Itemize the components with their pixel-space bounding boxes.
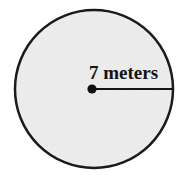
- center-dot: [87, 84, 96, 93]
- circle-radius-figure: 7 meters: [0, 0, 186, 175]
- radius-measurement-label: 7 meters: [89, 62, 158, 84]
- diagram-canvas: [0, 0, 186, 175]
